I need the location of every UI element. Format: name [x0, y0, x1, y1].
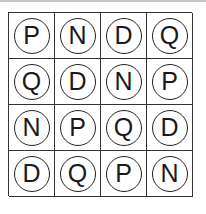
circle-icon: Q — [60, 156, 96, 192]
grid-cell-r2c3: N — [101, 59, 147, 105]
cell-letter: P — [69, 115, 86, 140]
cell-letter: Q — [22, 69, 41, 94]
cell-letter: Q — [114, 115, 133, 140]
cell-letter: P — [115, 161, 132, 186]
circle-icon: N — [152, 156, 188, 192]
cell-letter: P — [161, 69, 178, 94]
grid-cell-r3c4: D — [147, 105, 193, 151]
circle-icon: P — [14, 18, 50, 54]
grid-cell-r2c1: Q — [9, 59, 55, 105]
grid-cell-r1c4: Q — [147, 13, 193, 59]
grid-cell-r1c2: N — [55, 13, 101, 59]
grid-cell-r1c3: D — [101, 13, 147, 59]
cell-letter: N — [114, 69, 132, 94]
grid-cell-r3c1: N — [9, 105, 55, 151]
letter-grid: P N D Q Q D N P N P Q D D Q P N — [8, 12, 192, 196]
circle-icon: D — [106, 18, 142, 54]
cell-letter: N — [160, 161, 178, 186]
cell-letter: D — [160, 115, 178, 140]
cell-letter: P — [23, 23, 40, 48]
circle-icon: D — [60, 64, 96, 100]
cell-letter: Q — [160, 23, 179, 48]
grid-cell-r2c4: P — [147, 59, 193, 105]
top-divider — [0, 0, 206, 2]
circle-icon: Q — [106, 110, 142, 146]
grid-cell-r4c4: N — [147, 151, 193, 197]
circle-icon: N — [106, 64, 142, 100]
grid-cell-r3c2: P — [55, 105, 101, 151]
circle-icon: P — [152, 64, 188, 100]
circle-icon: N — [60, 18, 96, 54]
cell-letter: D — [22, 161, 40, 186]
circle-icon: Q — [14, 64, 50, 100]
grid-cell-r4c2: Q — [55, 151, 101, 197]
grid-cell-r2c2: D — [55, 59, 101, 105]
circle-icon: Q — [152, 18, 188, 54]
cell-letter: D — [114, 23, 132, 48]
grid-cell-r4c1: D — [9, 151, 55, 197]
grid-cell-r4c3: P — [101, 151, 147, 197]
circle-icon: P — [106, 156, 142, 192]
grid-cell-r1c1: P — [9, 13, 55, 59]
grid-cell-r3c3: Q — [101, 105, 147, 151]
circle-icon: P — [60, 110, 96, 146]
circle-icon: N — [14, 110, 50, 146]
circle-icon: D — [152, 110, 188, 146]
cell-letter: N — [68, 23, 86, 48]
cell-letter: Q — [68, 161, 87, 186]
cell-letter: N — [22, 115, 40, 140]
circle-icon: D — [14, 156, 50, 192]
cell-letter: D — [68, 69, 86, 94]
